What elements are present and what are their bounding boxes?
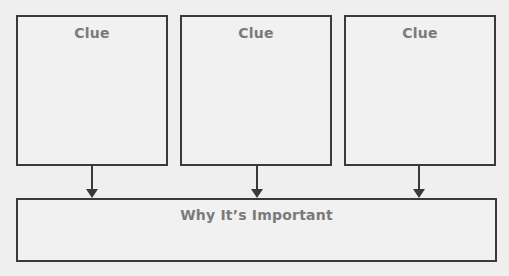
arrow-head bbox=[413, 189, 425, 198]
clue-label-1: Clue bbox=[18, 25, 166, 41]
arrow-down-icon bbox=[251, 165, 263, 199]
arrow-shaft bbox=[256, 165, 258, 191]
clue-label-3: Clue bbox=[346, 25, 494, 41]
clue-box-2: Clue bbox=[180, 15, 332, 166]
arrow-shaft bbox=[91, 165, 93, 191]
arrow-down-icon bbox=[86, 165, 98, 199]
arrow-down-icon bbox=[413, 165, 425, 199]
clue-label-2: Clue bbox=[182, 25, 330, 41]
why-important-box: Why It’s Important bbox=[16, 198, 497, 262]
why-important-label: Why It’s Important bbox=[18, 207, 495, 223]
clue-box-3: Clue bbox=[344, 15, 496, 166]
arrow-head bbox=[86, 189, 98, 198]
arrow-head bbox=[251, 189, 263, 198]
clue-box-1: Clue bbox=[16, 15, 168, 166]
arrow-shaft bbox=[418, 165, 420, 191]
